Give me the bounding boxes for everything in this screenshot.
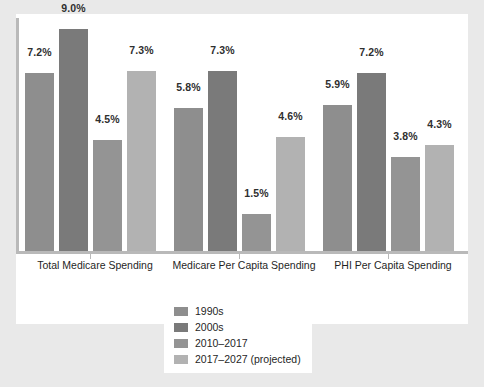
category-axis-labels: Total Medicare Spending Medicare Per Cap… [16, 258, 468, 298]
bar-slot: 4.3% [425, 14, 454, 251]
bar-2000s[interactable] [208, 71, 237, 251]
bar-1990s[interactable] [25, 73, 54, 251]
bar-group: 5.9% 7.2% 3.8% 4.3% [323, 14, 454, 251]
bar-group: 5.8% 7.3% 1.5% 4.6% [174, 14, 305, 251]
legend-item[interactable]: 2010–2017 [174, 336, 304, 350]
legend-item[interactable]: 1990s [174, 304, 304, 318]
bar-2017-2027-projected[interactable] [425, 145, 454, 251]
bar-value-label: 9.0% [61, 2, 85, 14]
bar-2000s[interactable] [357, 73, 386, 251]
bar-slot: 3.8% [391, 14, 420, 251]
legend-label: 2017–2027 (projected) [195, 353, 301, 365]
bar-1990s[interactable] [323, 105, 352, 251]
chart-legend: 1990s 2000s 2010–2017 2017–2027 (project… [164, 298, 312, 373]
chart-figure: 7.2% 9.0% 4.5% 7.3% 5.8% 7.3% [0, 0, 484, 387]
bar-2010-2017[interactable] [391, 157, 420, 251]
bar-group: 7.2% 9.0% 4.5% 7.3% [25, 14, 156, 251]
bar-slot: 7.3% [208, 14, 237, 251]
legend-swatch-icon [174, 307, 188, 316]
bar-slot: 7.2% [357, 14, 386, 251]
bar-slot: 5.8% [174, 14, 203, 251]
legend-swatch-icon [174, 339, 188, 348]
bar-2017-2027-projected[interactable] [276, 137, 305, 251]
legend-item[interactable]: 2017–2027 (projected) [174, 352, 304, 366]
bar-2000s[interactable] [59, 29, 88, 251]
bar-value-label: 5.9% [325, 78, 349, 90]
bar-slot: 9.0% [59, 14, 88, 251]
legend-item[interactable]: 2000s [174, 320, 304, 334]
bar-slot: 4.5% [93, 14, 122, 251]
bar-1990s[interactable] [174, 108, 203, 251]
category-label: Total Medicare Spending [19, 258, 171, 272]
bar-slot: 5.9% [323, 14, 352, 251]
bar-value-label: 7.2% [27, 46, 51, 58]
bar-slot: 7.2% [25, 14, 54, 251]
legend-label: 2000s [195, 321, 224, 333]
bar-value-label: 4.6% [278, 110, 302, 122]
x-axis-line [16, 251, 468, 254]
bar-slot: 4.6% [276, 14, 305, 251]
bar-slot: 7.3% [127, 14, 156, 251]
bar-value-label: 4.5% [95, 113, 119, 125]
legend-label: 2010–2017 [195, 337, 248, 349]
bar-value-label: 4.3% [427, 118, 451, 130]
legend-label: 1990s [195, 305, 224, 317]
legend-swatch-icon [174, 323, 188, 332]
bar-value-label: 1.5% [244, 187, 268, 199]
category-label: Medicare Per Capita Spending [168, 258, 320, 272]
bar-slot: 1.5% [242, 14, 271, 251]
bar-value-label: 7.2% [359, 46, 383, 58]
bar-2017-2027-projected[interactable] [127, 71, 156, 251]
bar-2010-2017[interactable] [93, 140, 122, 251]
legend-swatch-icon [174, 355, 188, 364]
bar-value-label: 5.8% [176, 81, 200, 93]
bar-value-label: 3.8% [393, 130, 417, 142]
bar-value-label: 7.3% [210, 44, 234, 56]
category-label: PHI Per Capita Spending [317, 258, 469, 272]
plot-area: 7.2% 9.0% 4.5% 7.3% 5.8% 7.3% [19, 14, 468, 251]
bar-2010-2017[interactable] [242, 214, 271, 251]
bar-value-label: 7.3% [129, 44, 153, 56]
